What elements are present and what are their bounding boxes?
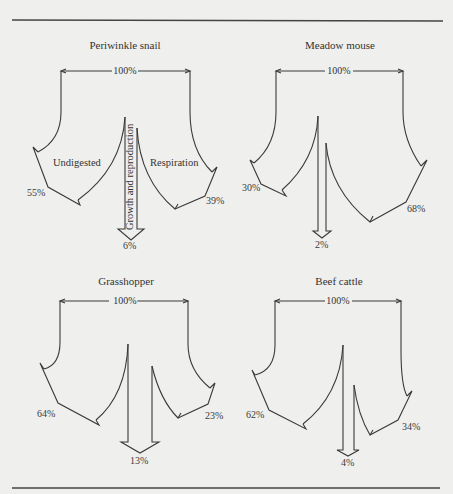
mouse-right-pct: 68% — [407, 203, 425, 214]
snail-left-pct: 55% — [27, 187, 45, 198]
cattle-left-pct: 62% — [246, 409, 264, 420]
grasshopper-center-pct: 13% — [130, 455, 148, 466]
mouse-flow-diagram — [250, 69, 427, 238]
snail-title: Periwinkle snail — [89, 39, 160, 51]
mouse-center-pct: 2% — [315, 239, 328, 250]
snail-respiration-label: Respiration — [150, 157, 198, 168]
cattle-center-pct: 4% — [341, 457, 354, 468]
top-rule — [12, 20, 443, 21]
snail-growth-label: Growth and reproduction — [124, 124, 135, 230]
snail-center-pct: 6% — [123, 240, 136, 251]
grasshopper-flow-diagram — [40, 299, 215, 453]
cattle-input-label: 100% — [325, 295, 350, 306]
cattle-flow-diagram — [252, 299, 412, 456]
energy-flow-diagram — [0, 0, 453, 494]
snail-right-pct: 39% — [206, 195, 224, 206]
mouse-title: Meadow mouse — [305, 39, 375, 51]
grasshopper-title: Grasshopper — [98, 275, 154, 287]
mouse-left-pct: 30% — [242, 182, 260, 193]
snail-undigested-label: Undigested — [53, 157, 101, 168]
grasshopper-input-label: 100% — [112, 295, 137, 306]
grasshopper-right-pct: 23% — [205, 410, 223, 421]
mouse-input-label: 100% — [326, 65, 351, 76]
grasshopper-left-pct: 64% — [37, 408, 55, 419]
cattle-right-pct: 34% — [402, 421, 420, 432]
cattle-title: Beef cattle — [315, 275, 362, 287]
snail-input-label: 100% — [112, 65, 137, 76]
